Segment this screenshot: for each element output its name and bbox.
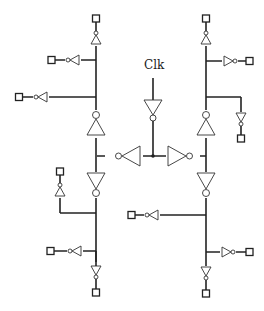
right-branch-3 [128,209,206,221]
output-pad [203,15,210,22]
output-pad [93,289,100,296]
left-branch-2 [16,91,97,103]
left-branch-4 [47,245,96,257]
right-lower-inverter [195,172,217,198]
output-pad [238,135,245,142]
output-pad [47,248,54,255]
center-inverter-right [166,146,200,166]
left-bottom-leaf [90,265,102,296]
output-pad [246,249,253,256]
right-branch-4 [206,246,253,258]
output-pad [57,168,64,175]
output-pad [246,58,253,65]
left-branch-1 [48,54,96,66]
right-branch-1 [206,55,253,67]
output-pad [128,212,135,219]
output-pad [93,15,100,22]
clock-input-inverter [144,78,162,158]
output-pad [48,57,55,64]
clock-label: Clk [144,58,165,72]
center-inverter-left [105,146,143,166]
left-upper-inverter [85,110,107,138]
right-upper-inverter [195,110,217,138]
clock-tree-diagram: Clk [0,0,264,311]
output-pad [16,94,23,101]
output-pad [203,290,210,297]
left-lower-inverter [85,172,107,198]
